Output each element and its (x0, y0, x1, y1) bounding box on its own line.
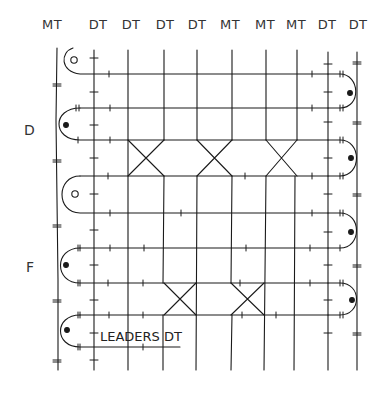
leaders-dt-annotation: LEADERS DT (100, 329, 182, 344)
filled-dot-icon (65, 328, 70, 333)
crossings-row-1 (128, 140, 297, 176)
filled-dot-icon (349, 230, 354, 235)
filled-dot-icon (348, 91, 353, 96)
weft-path (59, 48, 357, 347)
open-circle-icon (71, 57, 77, 63)
filled-dot-icon (349, 156, 354, 161)
vertical-tick-marks (53, 58, 361, 362)
filled-dot-icon (350, 298, 355, 303)
filled-dot-icon (64, 123, 69, 128)
filled-dot-icon (64, 263, 69, 268)
tick-marks (76, 71, 343, 350)
weaving-diagram (0, 0, 391, 395)
open-circle-icon (72, 191, 78, 197)
loop-markers (64, 57, 355, 333)
vertical-threads (56, 48, 357, 370)
crossings-row-2 (164, 283, 264, 315)
